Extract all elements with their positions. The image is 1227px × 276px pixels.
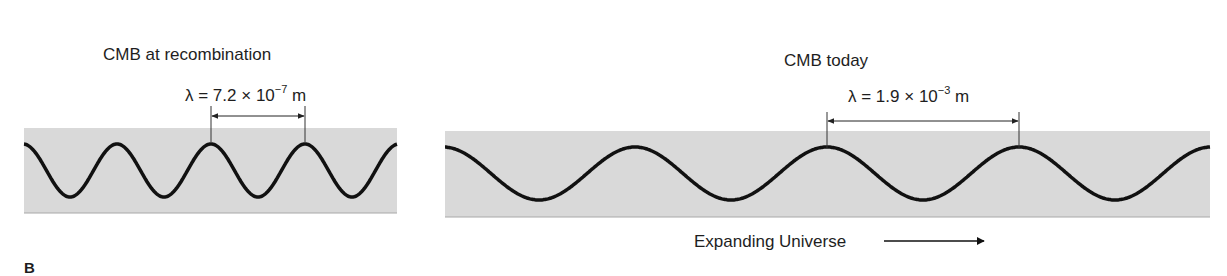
- right-wavelength-label: λ = 1.9 × 10−3 m: [848, 88, 969, 105]
- lambda-symbol: λ: [185, 86, 194, 105]
- right-panel-title: CMB today: [784, 52, 868, 69]
- wavelength-exponent: −3: [938, 84, 951, 96]
- panel-label: B: [24, 260, 35, 275]
- wavelength-value: = 7.2 × 10: [194, 86, 275, 105]
- wavelength-value: = 1.9 × 10: [857, 87, 938, 106]
- wavelength-exponent: −7: [275, 83, 288, 95]
- expanding-universe-caption: Expanding Universe: [694, 233, 846, 250]
- wavelength-unit: m: [950, 87, 969, 106]
- left-wavelength-label: λ = 7.2 × 10−7 m: [185, 87, 306, 104]
- lambda-symbol: λ: [848, 87, 857, 106]
- wavelength-unit: m: [287, 86, 306, 105]
- left-panel-title: CMB at recombination: [103, 46, 271, 63]
